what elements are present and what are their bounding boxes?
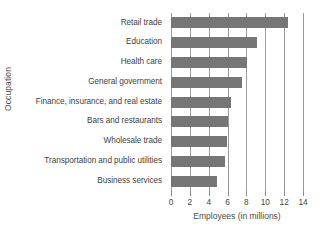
bar-row — [171, 13, 303, 33]
category-label: Bars and restaurants — [87, 117, 162, 126]
category-label-cell: Bars and restaurants — [8, 112, 167, 132]
category-label: Health care — [121, 58, 162, 67]
category-axis-labels: Retail tradeEducationHealth careGeneral … — [8, 13, 167, 191]
x-axis-tick-label: 0 — [169, 197, 174, 207]
gridline — [303, 13, 304, 191]
x-axis-tick-labels: 02468101214 — [171, 197, 303, 209]
category-label-cell: Wholesale trade — [8, 132, 167, 152]
x-axis-tick — [228, 191, 229, 196]
bar — [171, 136, 227, 147]
category-label: Retail trade — [121, 19, 162, 28]
bar-row — [171, 151, 303, 171]
bar — [171, 17, 288, 28]
x-axis-tick — [171, 191, 172, 196]
bar-row — [171, 33, 303, 53]
x-axis-tick — [190, 191, 191, 196]
x-axis-tick — [209, 191, 210, 196]
bar-row — [171, 53, 303, 73]
bar-row — [171, 72, 303, 92]
bars-group — [171, 13, 303, 191]
bar — [171, 116, 228, 127]
category-label: Wholesale trade — [104, 137, 162, 146]
x-axis-tick-label: 8 — [244, 197, 249, 207]
category-label: Business services — [97, 177, 162, 186]
category-label-cell: Education — [8, 33, 167, 53]
category-label-cell: General government — [8, 72, 167, 92]
category-label-cell: Transportation and public utilities — [8, 151, 167, 171]
bar-row — [171, 171, 303, 191]
category-label-cell: Retail trade — [8, 13, 167, 33]
x-axis-tick — [303, 191, 304, 196]
x-axis-tick-label: 14 — [298, 197, 307, 207]
bar — [171, 57, 247, 68]
bar — [171, 37, 257, 48]
x-axis-tick-label: 10 — [261, 197, 270, 207]
category-label-cell: Health care — [8, 53, 167, 73]
bar-row — [171, 132, 303, 152]
category-label: General government — [88, 78, 162, 87]
plot-area — [171, 13, 303, 191]
x-axis-title: Employees (in millions) — [171, 211, 303, 221]
category-label: Transportation and public utilities — [44, 157, 162, 166]
x-axis-tick — [265, 191, 266, 196]
bar-row — [171, 92, 303, 112]
x-axis-tick-marks — [171, 191, 303, 196]
x-axis-tick-label: 6 — [225, 197, 230, 207]
category-label: Education — [126, 38, 162, 47]
bar — [171, 176, 217, 187]
x-axis-tick-label: 12 — [280, 197, 289, 207]
bar — [171, 156, 225, 167]
x-axis-tick-label: 4 — [206, 197, 211, 207]
bar — [171, 97, 231, 108]
category-label: Finance, insurance, and real estate — [36, 98, 162, 107]
bar — [171, 77, 242, 88]
x-axis-tick — [246, 191, 247, 196]
category-label-cell: Finance, insurance, and real estate — [8, 92, 167, 112]
bar-row — [171, 112, 303, 132]
x-axis-tick-label: 2 — [188, 197, 193, 207]
category-label-cell: Business services — [8, 171, 167, 191]
x-axis-tick — [284, 191, 285, 196]
bar-chart: Occupation Retail tradeEducationHealth c… — [0, 0, 326, 244]
